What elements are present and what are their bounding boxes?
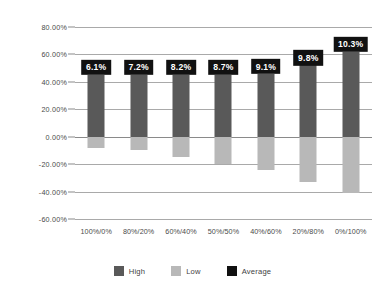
legend-item-high[interactable]: High (114, 266, 145, 276)
bar-group: 7.2% (117, 27, 159, 219)
y-axis-tick-label: 40.00% (7, 77, 67, 86)
bar-low[interactable] (173, 137, 190, 158)
y-axis-tick-label: -60.00% (7, 215, 67, 224)
plot-area: 6.1%7.2%8.2%8.7%9.1%9.8%10.3% (75, 27, 372, 219)
x-axis-tick-label: 0%/100% (330, 227, 372, 236)
x-axis-tick-label: 100%/0% (75, 227, 117, 236)
bar-high[interactable] (130, 75, 147, 137)
y-axis-tick-mark (68, 136, 75, 137)
y-axis-tick-label: -20.00% (7, 160, 67, 169)
bar-groups: 6.1%7.2%8.2%8.7%9.1%9.8%10.3% (75, 27, 372, 219)
y-axis-tick-label: 0.00% (7, 132, 67, 141)
x-axis-tick-label: 60%/40% (160, 227, 202, 236)
legend-swatch-icon (227, 266, 237, 276)
bar-group: 8.7% (202, 27, 244, 219)
average-value-label: 8.7% (209, 60, 239, 75)
legend-swatch-icon (114, 266, 124, 276)
bar-low[interactable] (215, 137, 232, 164)
bar-high[interactable] (300, 65, 317, 136)
bar-high[interactable] (173, 75, 190, 137)
x-axis-tick-label: 80%/20% (117, 227, 159, 236)
average-value-label: 8.2% (166, 60, 196, 75)
chart-legend: HighLowAverage (0, 266, 385, 276)
bar-high[interactable] (257, 74, 274, 136)
bar-group: 10.3% (330, 27, 372, 219)
legend-swatch-icon (171, 266, 181, 276)
y-axis-tick-mark (68, 219, 75, 220)
bar-high[interactable] (342, 52, 359, 137)
y-axis-tick-label: 80.00% (7, 23, 67, 32)
x-axis-tick-label: 20%/80% (287, 227, 329, 236)
bar-group: 9.8% (287, 27, 329, 219)
average-value-label: 7.2% (124, 60, 154, 75)
average-value-label: 9.8% (294, 50, 324, 65)
y-axis-tick-label: 20.00% (7, 105, 67, 114)
bar-low[interactable] (88, 137, 105, 148)
bar-high[interactable] (215, 75, 232, 137)
bar-group: 6.1% (75, 27, 117, 219)
bar-chart: 6.1%7.2%8.2%8.7%9.1%9.8%10.3% 100%/0%80%… (0, 0, 385, 298)
legend-label: Average (242, 267, 272, 276)
average-value-label: 10.3% (333, 37, 368, 52)
y-axis-tick-mark (68, 27, 75, 28)
bar-low[interactable] (300, 137, 317, 182)
legend-item-low[interactable]: Low (171, 266, 201, 276)
x-axis-tick-label: 40%/60% (245, 227, 287, 236)
y-axis-tick-mark (68, 109, 75, 110)
x-axis-tick-label: 50%/50% (202, 227, 244, 236)
legend-item-average[interactable]: Average (227, 266, 272, 276)
x-axis-labels: 100%/0%80%/20%60%/40%50%/50%40%/60%20%/8… (75, 227, 372, 236)
y-axis-tick-mark (68, 164, 75, 165)
y-axis-tick-mark (68, 54, 75, 55)
y-axis-tick-label: 60.00% (7, 50, 67, 59)
bar-group: 9.1% (245, 27, 287, 219)
bar-low[interactable] (130, 137, 147, 151)
bar-low[interactable] (257, 137, 274, 170)
y-axis-tick-label: -40.00% (7, 187, 67, 196)
bar-low[interactable] (342, 137, 359, 193)
legend-label: Low (186, 267, 201, 276)
average-value-label: 9.1% (251, 59, 281, 74)
y-axis-tick-mark (68, 81, 75, 82)
y-axis-tick-mark (68, 191, 75, 192)
x-axis-line (75, 219, 372, 220)
legend-label: High (129, 267, 145, 276)
bar-high[interactable] (88, 75, 105, 137)
average-value-label: 6.1% (81, 60, 111, 75)
bar-group: 8.2% (160, 27, 202, 219)
